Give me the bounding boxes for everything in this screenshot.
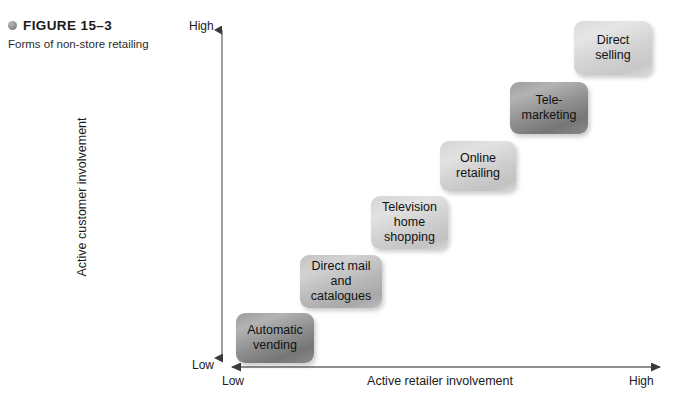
node-box-online-retailing[interactable]: Online retailing (440, 141, 516, 191)
node-box-direct-mail-and-catalogues[interactable]: Direct mail and catalogues (300, 255, 382, 308)
node-box-telemarketing[interactable]: Tele- marketing (510, 82, 588, 134)
x-axis-title: Active retailer involvement (280, 374, 600, 388)
y-axis-high-label: High (189, 19, 214, 33)
x-axis-low-label: Low (222, 374, 244, 388)
node-box-direct-selling[interactable]: Direct selling (574, 21, 652, 75)
node-box-television-home-shopping[interactable]: Television home shopping (371, 196, 448, 249)
x-axis-high-label: High (629, 374, 654, 388)
figure-container: FIGURE 15–3 Forms of non-store retailing (0, 0, 679, 420)
y-axis-low-label: Low (192, 358, 214, 372)
y-axis-title: Active customer involvement (75, 47, 89, 347)
node-box-automatic-vending[interactable]: Automatic vending (236, 313, 314, 363)
plot-area: High Low Low High Active customer involv… (0, 0, 679, 420)
